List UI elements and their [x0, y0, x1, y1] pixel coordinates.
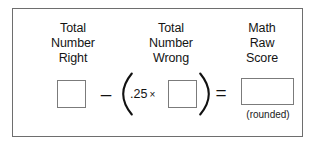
column-header-line: Math: [220, 21, 304, 36]
equals-operator: =: [209, 79, 233, 107]
column-header-line: Number: [23, 36, 123, 51]
entry-box-total-number-wrong[interactable]: [168, 80, 197, 108]
formula-row: – .25× = (rounded): [13, 71, 302, 137]
column-header-line: Raw: [220, 36, 304, 51]
coefficient-expression: .25×: [130, 84, 155, 105]
column-header-math-raw-score: Math Raw Score: [220, 21, 304, 66]
worksheet-frame: Total Number Right Total Number Wrong Ma…: [12, 8, 303, 137]
entry-box-total-number-right[interactable]: [57, 80, 86, 108]
minus-operator: –: [95, 80, 117, 108]
coefficient-value: .25: [130, 87, 147, 101]
column-header-line: Total: [23, 21, 123, 36]
rounded-note-label: (rounded): [235, 109, 301, 121]
column-header-line: Number: [121, 36, 221, 51]
column-header-line: Score: [220, 51, 304, 66]
column-header-total-number-right: Total Number Right: [23, 21, 123, 66]
column-header-line: Total: [121, 21, 221, 36]
column-header-total-number-wrong: Total Number Wrong: [121, 21, 221, 66]
column-header-line: Right: [23, 51, 123, 66]
column-header-line: Wrong: [121, 51, 221, 66]
entry-box-math-raw-score[interactable]: [241, 78, 294, 105]
times-operator: ×: [147, 89, 155, 100]
